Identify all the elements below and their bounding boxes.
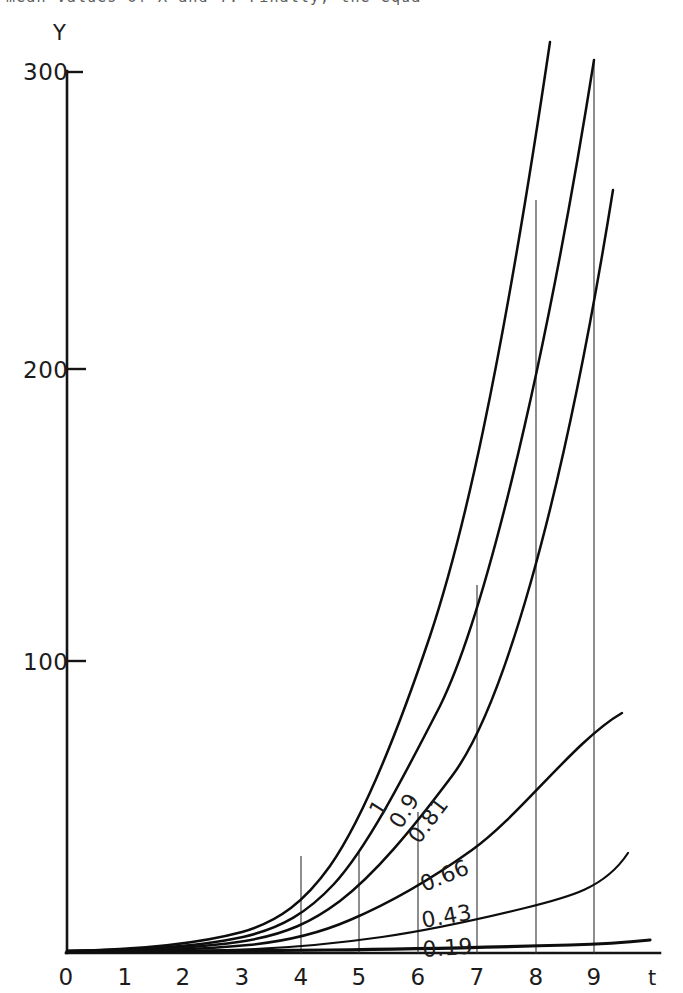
x-axis-title: t	[648, 966, 656, 990]
x-tick-label-9: 9	[586, 964, 601, 990]
x-tick-label-8: 8	[528, 964, 543, 990]
curve-label-0-19: 0.19	[422, 934, 474, 962]
x-tick-label-5: 5	[351, 964, 366, 990]
curve-series-0-66	[67, 713, 622, 952]
figure-root: mean values of X and Y. Finally, the equ…	[0, 0, 683, 993]
curve-series-0-81	[67, 190, 613, 951]
curve-label-0-66: 0.66	[417, 855, 473, 897]
y-axis-title: Y	[52, 21, 66, 45]
x-tick-labels-group: 0 1 2 3 4 5 6 7 8 9	[58, 964, 601, 990]
y-tick-label-100: 100	[23, 649, 68, 675]
x-tick-label-4: 4	[293, 964, 308, 990]
x-tick-label-1: 1	[117, 964, 132, 990]
curve-labels-group: 1 0.9 0.81 0.66 0.43 0.19	[364, 789, 474, 962]
curve-series-0-9	[67, 60, 594, 951]
y-tick-label-200: 200	[23, 357, 68, 383]
x-tick-label-7: 7	[469, 964, 484, 990]
chart-canvas: 300 200 100 0 1 2 3 4 5 6 7 8 9 Y t 1 0.…	[0, 0, 683, 993]
x-tick-label-3: 3	[234, 964, 249, 990]
x-tick-label-0: 0	[58, 964, 73, 990]
x-tick-label-2: 2	[175, 964, 190, 990]
x-tick-label-6: 6	[410, 964, 425, 990]
y-tick-labels-group: 300 200 100	[23, 59, 68, 675]
curves-group	[67, 42, 650, 952]
curve-label-0-43: 0.43	[420, 900, 474, 933]
y-tick-label-300: 300	[23, 59, 68, 85]
